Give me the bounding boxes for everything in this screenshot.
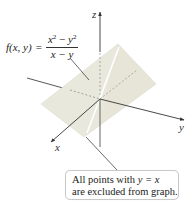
callout-line-1: All points with y = x bbox=[72, 174, 178, 186]
function-lhs: f(x, y) bbox=[6, 41, 32, 53]
x-axis-label: x bbox=[55, 142, 60, 153]
equals-sign: = bbox=[36, 41, 42, 53]
z-axis-label: z bbox=[92, 9, 96, 20]
denominator: x − y bbox=[51, 48, 74, 61]
callout-line-1-text: All points with bbox=[72, 174, 138, 185]
excluded-points-callout: All points with y = x are excluded from … bbox=[65, 170, 179, 200]
callout-line-1-math: y = x bbox=[138, 174, 160, 185]
fraction: x2 − y2 x − y bbox=[46, 34, 79, 60]
callout-line-2: are excluded from graph. bbox=[72, 186, 178, 198]
numerator-operator: − bbox=[56, 33, 68, 45]
numerator-b-exponent: 2 bbox=[73, 33, 77, 41]
y-axis-label: y bbox=[179, 122, 184, 133]
callout-leader-line bbox=[86, 137, 117, 170]
function-formula: f(x, y) = x2 − y2 x − y bbox=[6, 34, 78, 60]
numerator: x2 − y2 bbox=[46, 34, 79, 48]
